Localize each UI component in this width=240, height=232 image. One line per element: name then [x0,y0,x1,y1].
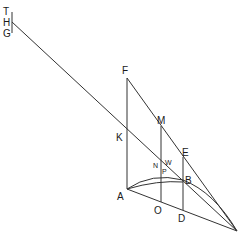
label-t: T [3,6,9,17]
line-a-convergence [127,189,237,231]
label-m: M [157,115,165,126]
label-w: W [165,159,172,166]
geometric-diagram: T H G F M K E N W P B A O D [0,0,240,232]
label-a: A [117,191,124,202]
label-n: N [153,162,158,169]
label-p: P [162,168,167,175]
label-d: D [178,213,185,224]
label-o: O [154,205,162,216]
line-ab-lower [127,182,183,189]
line-h-convergence [12,22,237,231]
label-k: K [116,132,123,143]
label-b: B [185,175,192,186]
label-h: H [3,17,10,28]
label-g: G [3,28,11,39]
label-f: F [122,65,128,76]
label-e: E [182,147,189,158]
